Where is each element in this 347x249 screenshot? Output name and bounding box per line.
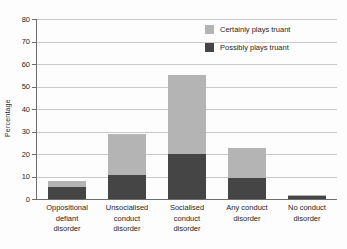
bar-segment-certainly [108, 134, 146, 176]
y-tick-label: 40 [6, 105, 30, 114]
x-tick-label-line: disorder [271, 214, 343, 225]
bar-group [108, 19, 146, 199]
legend-item-possibly: Possibly plays truant [205, 40, 341, 54]
legend-swatch-possibly [205, 43, 214, 52]
y-tick-mark [32, 109, 36, 110]
bar-segment-certainly [288, 195, 326, 196]
y-tick-label: 0 [6, 195, 30, 204]
stacked-bar-chart: Percentage 01020304050607080 Oppositiona… [0, 0, 347, 249]
y-tick-mark [32, 199, 36, 200]
bar-segment-certainly [168, 75, 206, 154]
bar-segment-possibly [228, 178, 266, 199]
y-tick-mark [32, 19, 36, 20]
y-tick-mark [32, 132, 36, 133]
legend-item-certainly: Certainly plays truant [205, 22, 341, 36]
x-tick-label-line: No conduct [271, 203, 343, 214]
y-tick-mark [32, 64, 36, 65]
y-tick-label: 60 [6, 60, 30, 69]
bar-segment-possibly [108, 175, 146, 199]
y-tick-label: 20 [6, 150, 30, 159]
bar-segment-possibly [288, 196, 326, 199]
legend-label-certainly: Certainly plays truant [220, 25, 290, 34]
y-tick-label: 30 [6, 127, 30, 136]
y-tick-mark [32, 87, 36, 88]
legend-label-possibly: Possibly plays truant [220, 43, 289, 52]
y-tick-mark [32, 177, 36, 178]
bar-segment-certainly [228, 148, 266, 177]
bar-group [168, 19, 206, 199]
y-tick-mark [32, 154, 36, 155]
y-tick-label: 50 [6, 82, 30, 91]
y-tick-mark [32, 42, 36, 43]
y-tick-label: 10 [6, 172, 30, 181]
bar-segment-possibly [48, 187, 86, 199]
legend-swatch-certainly [205, 25, 214, 34]
y-tick-label: 70 [6, 37, 30, 46]
x-tick-label-line: disorder [151, 224, 223, 235]
x-axis-line [37, 199, 337, 200]
bar-segment-possibly [168, 154, 206, 199]
x-tick-label: No conductdisorder [271, 203, 343, 224]
chart-legend: Certainly plays truant Possibly plays tr… [205, 22, 341, 58]
bar-segment-certainly [48, 181, 86, 187]
y-tick-label: 80 [6, 15, 30, 24]
bar-group [48, 19, 86, 199]
